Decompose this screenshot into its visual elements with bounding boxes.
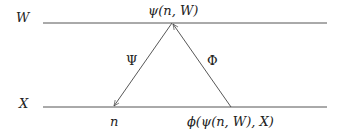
psi-edge-label: Ψ [126,54,137,68]
right-base-label: ϕ(ψ(n, W), X) [187,115,274,129]
psi-arrow [114,23,172,106]
phi-edge-label: Φ [207,54,218,68]
level-label-w: W [16,11,29,25]
apex-label: ψ(n, W) [148,4,198,18]
diagram-canvas: W X ψ(n, W) n ϕ(ψ(n, W), X) Ψ Φ [0,0,343,136]
level-label-x: X [19,97,28,111]
diagram-lines [0,0,343,136]
phi-arrow [173,24,231,107]
left-base-label: n [110,115,118,129]
